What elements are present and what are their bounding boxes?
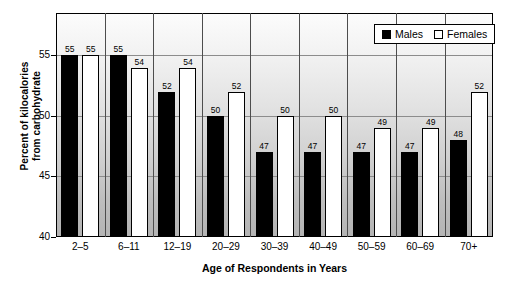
bar-males-20–29[interactable]: 50 bbox=[207, 116, 224, 237]
bar-value-label: 54 bbox=[135, 57, 144, 67]
bar-group: 5254 bbox=[153, 13, 202, 237]
x-tick-label-70+: 70+ bbox=[445, 241, 494, 252]
legend: Males Females bbox=[374, 24, 495, 44]
x-tick-label-6–11: 6–11 bbox=[105, 241, 154, 252]
bar-value-label: 50 bbox=[211, 105, 220, 115]
x-tick-label-60–69: 60–69 bbox=[396, 241, 445, 252]
bar-females-2–5[interactable]: 55 bbox=[82, 55, 99, 237]
bar-groups: 555555545254505247504750474947494852 bbox=[56, 13, 493, 237]
bar-chart-figure: Percent of kilocalories from carbohydrat… bbox=[0, 0, 512, 286]
bar-value-label: 52 bbox=[162, 81, 171, 91]
bar-group: 5554 bbox=[105, 13, 154, 237]
bar-males-12–19[interactable]: 52 bbox=[158, 92, 175, 237]
bar-females-6–11[interactable]: 54 bbox=[131, 68, 148, 238]
bar-group: 4749 bbox=[396, 13, 445, 237]
legend-item-females: Females bbox=[434, 28, 487, 40]
bar-females-70+[interactable]: 52 bbox=[471, 92, 488, 237]
bar-value-label: 47 bbox=[259, 141, 268, 151]
bar-value-label: 55 bbox=[86, 44, 95, 54]
x-tick-label-40–49: 40–49 bbox=[299, 241, 348, 252]
bar-females-12–19[interactable]: 54 bbox=[179, 68, 196, 238]
bar-value-label: 49 bbox=[377, 117, 386, 127]
bar-females-50–59[interactable]: 49 bbox=[374, 128, 391, 237]
bar-value-label: 47 bbox=[356, 141, 365, 151]
bar-group: 4750 bbox=[250, 13, 299, 237]
x-tick-label-50–59: 50–59 bbox=[347, 241, 396, 252]
bar-value-label: 47 bbox=[308, 141, 317, 151]
bar-females-40–49[interactable]: 50 bbox=[325, 116, 342, 237]
legend-swatch-females-icon bbox=[434, 30, 443, 39]
bar-value-label: 55 bbox=[65, 44, 74, 54]
y-tick-label-45: 45 bbox=[24, 170, 50, 181]
bar-females-30–39[interactable]: 50 bbox=[277, 116, 294, 237]
bar-males-40–49[interactable]: 47 bbox=[304, 152, 321, 237]
bar-males-30–39[interactable]: 47 bbox=[256, 152, 273, 237]
bar-value-label: 50 bbox=[329, 105, 338, 115]
bar-males-2–5[interactable]: 55 bbox=[61, 55, 78, 237]
y-tick-label-50: 50 bbox=[24, 110, 50, 121]
y-tick-mark-40 bbox=[51, 237, 56, 238]
x-tick-label-20–29: 20–29 bbox=[202, 241, 251, 252]
bar-value-label: 48 bbox=[454, 129, 463, 139]
bar-males-70+[interactable]: 48 bbox=[450, 140, 467, 237]
bar-males-6–11[interactable]: 55 bbox=[110, 55, 127, 237]
legend-swatch-males-icon bbox=[382, 30, 391, 39]
legend-item-males: Males bbox=[382, 28, 423, 40]
bar-group: 4750 bbox=[299, 13, 348, 237]
bar-value-label: 49 bbox=[426, 117, 435, 127]
x-tick-label-12–19: 12–19 bbox=[153, 241, 202, 252]
bar-value-label: 55 bbox=[114, 44, 123, 54]
bar-group: 5555 bbox=[56, 13, 105, 237]
bar-value-label: 52 bbox=[475, 81, 484, 91]
bar-value-label: 54 bbox=[183, 57, 192, 67]
x-tick-label-2–5: 2–5 bbox=[56, 241, 105, 252]
bar-group: 4852 bbox=[445, 13, 494, 237]
x-axis-title: Age of Respondents in Years bbox=[56, 262, 493, 274]
bar-males-50–59[interactable]: 47 bbox=[353, 152, 370, 237]
bar-males-60–69[interactable]: 47 bbox=[401, 152, 418, 237]
bar-group: 4749 bbox=[347, 13, 396, 237]
y-tick-label-40: 40 bbox=[24, 231, 50, 242]
legend-label-females: Females bbox=[447, 28, 487, 40]
bar-group: 5052 bbox=[202, 13, 251, 237]
bar-females-20–29[interactable]: 52 bbox=[228, 92, 245, 237]
bar-females-60–69[interactable]: 49 bbox=[422, 128, 439, 237]
bar-value-label: 52 bbox=[232, 81, 241, 91]
y-tick-label-55: 55 bbox=[24, 49, 50, 60]
legend-label-males: Males bbox=[395, 28, 423, 40]
x-tick-label-30–39: 30–39 bbox=[250, 241, 299, 252]
bar-value-label: 47 bbox=[405, 141, 414, 151]
x-axis-tick-labels: 2–56–1112–1920–2930–3940–4950–5960–6970+ bbox=[56, 241, 493, 252]
bar-value-label: 50 bbox=[280, 105, 289, 115]
